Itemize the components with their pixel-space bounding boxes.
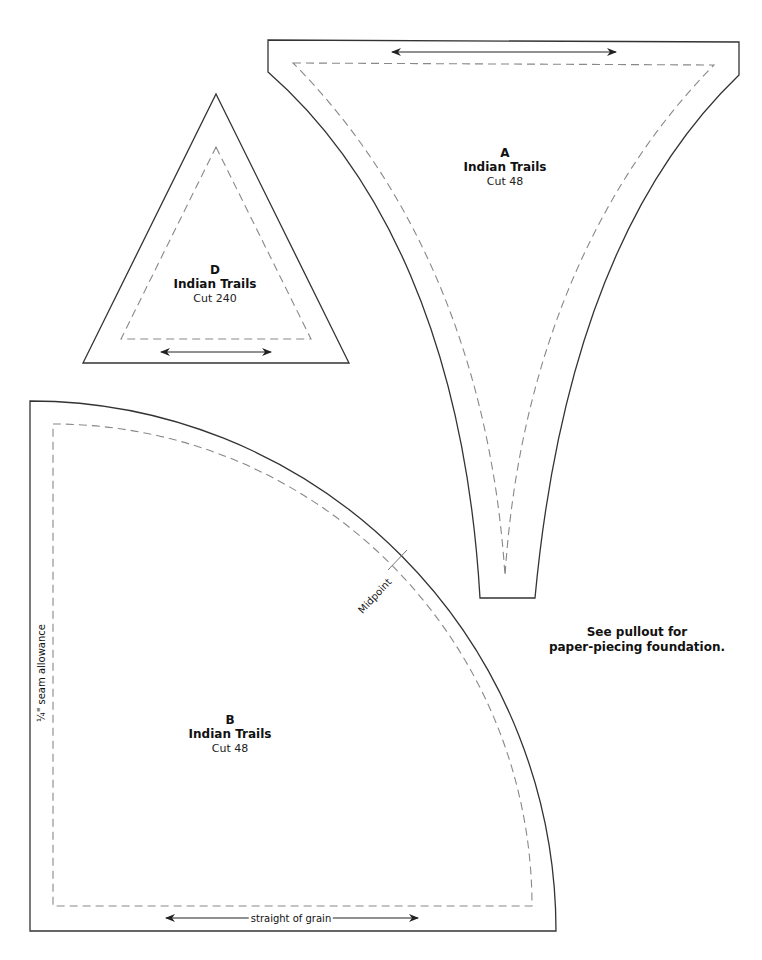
- seam-allowance-label: ¼" seam allowance: [36, 624, 47, 722]
- piece-b-label: B Indian Trails Cut 48: [189, 713, 272, 755]
- piece-d-name: Indian Trails: [174, 277, 257, 291]
- template-piece-d: [83, 94, 349, 363]
- piece-a-label: A Indian Trails Cut 48: [464, 146, 547, 188]
- pullout-note-line1: See pullout for: [549, 625, 725, 640]
- template-piece-b: [30, 401, 556, 931]
- pullout-note-line2: paper-piecing foundation.: [549, 640, 725, 655]
- piece-a-cut-line: [268, 40, 739, 598]
- piece-a-name: Indian Trails: [464, 160, 547, 174]
- grain-label: straight of grain: [249, 913, 333, 924]
- piece-a-seam-line: [293, 63, 714, 576]
- template-piece-a: [268, 40, 739, 598]
- piece-d-letter: D: [174, 263, 257, 277]
- piece-a-letter: A: [464, 146, 547, 160]
- piece-a-cut-count: Cut 48: [464, 175, 547, 188]
- piece-b-name: Indian Trails: [189, 727, 272, 741]
- piece-b-cut-line: [30, 401, 556, 931]
- pullout-note: See pullout for paper-piecing foundation…: [549, 625, 725, 655]
- piece-d-seam-line: [121, 147, 311, 339]
- piece-d-cut-line: [83, 94, 349, 363]
- piece-b-cut-count: Cut 48: [189, 742, 272, 755]
- piece-b-seam-line: [53, 424, 532, 906]
- piece-b-letter: B: [189, 713, 272, 727]
- pattern-canvas: [0, 0, 762, 960]
- piece-b-midpoint-tick: [388, 550, 407, 570]
- piece-d-cut-count: Cut 240: [174, 292, 257, 305]
- piece-d-label: D Indian Trails Cut 240: [174, 263, 257, 305]
